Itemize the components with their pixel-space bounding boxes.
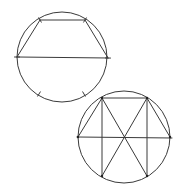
vertex-point: [101, 175, 103, 177]
circle2-edge-left-top: [78, 98, 102, 137]
vertex-point: [77, 136, 79, 138]
tick-mark: [83, 92, 86, 96]
circle2-group: [77, 91, 172, 183]
circle1-group: [15, 12, 111, 102]
circle1-diameter: [17, 57, 108, 58]
diagram-canvas: [0, 0, 180, 186]
geometry-figure: [0, 0, 180, 186]
vertex-point: [146, 175, 148, 177]
vertex-point: [146, 97, 148, 99]
vertex-point: [101, 97, 103, 99]
circle1-right-chord: [85, 20, 108, 58]
circle2-edge-right-top: [147, 98, 170, 137]
vertex-point: [169, 136, 171, 138]
